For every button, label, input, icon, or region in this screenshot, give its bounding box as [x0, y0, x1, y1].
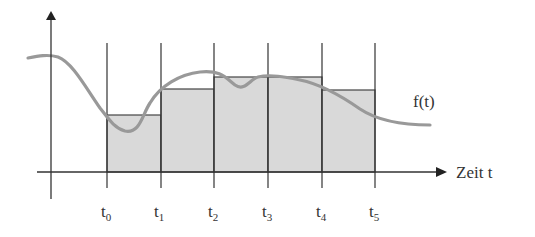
bar-t3-t4 — [268, 77, 322, 172]
x-axis-label: Zeit t — [456, 163, 493, 182]
x-axis-arrow-icon — [436, 167, 447, 177]
function-label: f(t) — [413, 92, 435, 111]
step-bars — [107, 77, 375, 172]
svg-text:t5: t5 — [369, 202, 380, 223]
svg-text:t0: t0 — [101, 202, 112, 223]
step-function-diagram: f(t) Zeit t t0 t1 t2 t3 t4 t5 — [0, 0, 535, 237]
svg-text:t4: t4 — [316, 202, 327, 223]
svg-text:t2: t2 — [208, 202, 218, 223]
bar-t0-t1 — [107, 115, 161, 172]
tick-labels: t0 t1 t2 t3 t4 t5 — [101, 202, 380, 223]
svg-text:t1: t1 — [154, 202, 164, 223]
bar-t2-t3 — [214, 77, 268, 172]
svg-text:t3: t3 — [262, 202, 273, 223]
bar-t1-t2 — [161, 89, 214, 172]
y-axis-arrow-icon — [46, 11, 56, 20]
